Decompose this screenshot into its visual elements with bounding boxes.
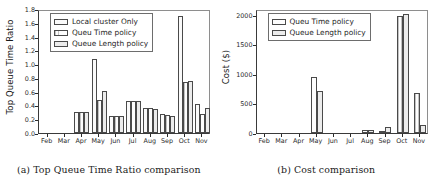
y-axis-label-b-text: Cost ($) <box>222 49 232 83</box>
x-tick-label: Jun <box>110 137 120 145</box>
y-tick-label: 1.2 <box>25 47 35 55</box>
x-tick-label: Aug <box>361 137 373 145</box>
bar <box>153 109 158 133</box>
caption-a: (a) Top Queue Time Ratio comparison <box>0 164 218 175</box>
x-axis-ticks-b: FebMarAprMayJunJulAugSepOctNov <box>256 135 428 147</box>
x-tick-label: Jul <box>129 137 137 145</box>
y-tick-label: 1.8 <box>25 6 35 14</box>
legend-swatch-icon <box>54 30 68 36</box>
bar-group <box>177 11 194 133</box>
legend-swatch-icon <box>272 30 286 36</box>
legend-entry-label: Queu Time policy <box>72 28 136 37</box>
y-tick-label: 0.0 <box>25 130 35 138</box>
x-tick-label: Mar <box>275 137 287 145</box>
y-tick-label: 0.6 <box>25 89 35 97</box>
x-tick-label: Jun <box>328 137 338 145</box>
y-tick-label: 0.8 <box>25 75 35 83</box>
subfigure-a: Top Queue Time Ratio 0.00.20.40.60.81.01… <box>0 0 218 186</box>
legend-entry-label: Queu Time policy <box>290 17 354 26</box>
legend-entry-label: Queue Length policy <box>290 28 366 37</box>
bar <box>317 91 323 134</box>
x-tick-label: Aug <box>144 137 156 145</box>
y-tick-label: 1500 <box>236 41 252 49</box>
x-tick-label: Jul <box>346 137 354 145</box>
bar <box>368 130 374 133</box>
y-tick-label: 500 <box>240 100 252 108</box>
y-axis-label-a-text: Top Queue Time Ratio <box>4 19 14 114</box>
x-tick-label: Nov <box>413 137 425 145</box>
plot-a: Top Queue Time Ratio 0.00.20.40.60.81.01… <box>0 0 217 160</box>
subfigure-b: Cost ($) 0500100015002000 FebMarAprMayJu… <box>218 0 435 186</box>
y-tick-label: 1.4 <box>25 34 35 42</box>
x-tick-label: Oct <box>396 137 407 145</box>
legend-entry: Queue Length policy <box>54 38 148 49</box>
x-tick-label: Mar <box>58 137 70 145</box>
x-tick-label: May <box>92 137 105 145</box>
legend-entry: Queu Time policy <box>54 27 148 38</box>
y-axis-ticks-b: 0500100015002000 <box>232 10 256 134</box>
x-tick-label: Sep <box>378 137 390 145</box>
x-tick-label: Feb <box>258 137 269 145</box>
y-tick-label: 0.4 <box>25 102 35 110</box>
y-tick-label: 0 <box>248 130 252 138</box>
legend-swatch-icon <box>54 19 68 25</box>
legend-entry: Queue Length policy <box>272 27 366 38</box>
x-tick-label: Sep <box>161 137 173 145</box>
bar-group <box>194 11 211 133</box>
figure-row: Top Queue Time Ratio 0.00.20.40.60.81.01… <box>0 0 435 186</box>
bar <box>385 127 391 133</box>
x-tick-label: Feb <box>41 137 52 145</box>
legend-a: Local cluster OnlyQueu Time policyQueue … <box>50 13 153 52</box>
plot-b: Cost ($) 0500100015002000 FebMarAprMayJu… <box>218 0 435 160</box>
y-tick-label: 1.6 <box>25 20 35 28</box>
bar <box>119 116 124 133</box>
y-tick-label: 1.0 <box>25 61 35 69</box>
bar <box>84 112 89 133</box>
y-tick-label: 1000 <box>236 71 252 79</box>
bar-group <box>394 11 411 133</box>
x-tick-label: Apr <box>293 137 304 145</box>
bar-group <box>411 11 428 133</box>
legend-swatch-icon <box>54 41 68 47</box>
legend-entry: Local cluster Only <box>54 16 148 27</box>
bar <box>170 116 175 133</box>
bar-group <box>377 11 394 133</box>
legend-entry-label: Queue Length policy <box>72 39 148 48</box>
bar <box>403 14 409 133</box>
bar <box>136 101 141 133</box>
bar-group <box>159 11 176 133</box>
legend-entry-label: Local cluster Only <box>72 17 138 26</box>
y-axis-ticks-a: 0.00.20.40.60.81.01.21.41.61.8 <box>14 10 38 134</box>
y-tick-label: 0.2 <box>25 116 35 124</box>
bar <box>420 125 426 133</box>
x-tick-label: May <box>309 137 322 145</box>
y-tick-label: 2000 <box>236 12 252 20</box>
x-tick-label: Nov <box>195 137 207 145</box>
legend-swatch-icon <box>272 19 286 25</box>
bar <box>205 108 210 133</box>
bar <box>102 91 107 133</box>
legend-b: Queu Time policyQueue Length policy <box>268 13 371 41</box>
bar <box>188 81 193 133</box>
x-tick-label: Oct <box>179 137 190 145</box>
caption-b: (b) Cost comparison <box>218 164 435 175</box>
x-tick-label: Apr <box>75 137 86 145</box>
legend-entry: Queu Time policy <box>272 16 366 27</box>
x-axis-ticks-a: FebMarAprMayJunJulAugSepOctNov <box>38 135 210 147</box>
